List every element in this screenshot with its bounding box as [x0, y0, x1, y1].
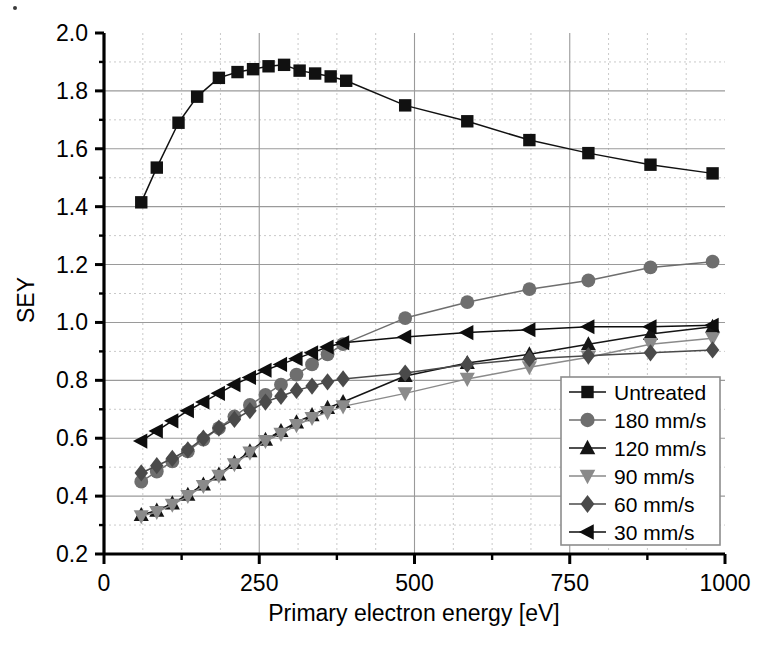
legend-label: 30 mm/s: [614, 521, 695, 544]
data-point-marker-diamond: [461, 356, 474, 373]
y-axis-tick-label: 1.0: [56, 309, 88, 335]
data-point-marker-circle: [581, 274, 595, 288]
data-point-marker-square: [309, 67, 321, 79]
data-point-marker-triangle-left: [242, 370, 256, 385]
data-point-marker-circle: [290, 368, 304, 382]
legend-label: 60 mm/s: [614, 493, 695, 516]
data-point-marker-circle: [644, 261, 658, 275]
y-axis-tick-label: 1.4: [56, 194, 88, 220]
data-point-marker-square: [581, 386, 593, 398]
data-point-marker-square: [262, 60, 274, 72]
data-point-marker-square: [278, 59, 290, 71]
y-axis-tick-label: 0.4: [56, 483, 88, 509]
data-point-marker-triangle-left: [148, 423, 162, 438]
data-point-marker-square: [324, 70, 336, 82]
data-point-marker-square: [151, 161, 163, 173]
x-axis-title: Primary electron energy [eV]: [268, 600, 559, 626]
y-axis-tick-label: 0.6: [56, 425, 88, 451]
series-line: [141, 65, 712, 202]
data-point-marker-square: [340, 75, 352, 87]
y-axis-tick-label: 1.6: [56, 136, 88, 162]
series-untreated: [135, 59, 719, 209]
data-point-marker-diamond: [290, 382, 303, 399]
data-point-marker-square: [644, 158, 656, 170]
data-point-marker-circle: [460, 295, 474, 309]
data-point-marker-square: [231, 66, 243, 78]
data-point-marker-square: [523, 134, 535, 146]
data-point-marker-diamond: [706, 341, 719, 358]
data-point-marker-square: [293, 64, 305, 76]
data-point-marker-square: [247, 63, 259, 75]
scan-artifact-speck: [13, 6, 17, 10]
data-point-marker-square: [172, 117, 184, 129]
data-point-marker-square: [191, 90, 203, 102]
data-point-marker-diamond: [336, 370, 349, 387]
legend-label: 180 mm/s: [614, 409, 706, 432]
data-point-marker-diamond: [644, 344, 657, 361]
x-axis-tick-label: 1000: [699, 570, 750, 596]
data-point-marker-triangle-left: [133, 434, 147, 449]
data-point-marker-triangle-left: [164, 413, 178, 428]
data-point-marker-square: [399, 99, 411, 111]
data-point-marker-square: [582, 147, 594, 159]
data-point-marker-diamond: [274, 388, 287, 405]
chart-canvas: 0.20.40.60.81.01.21.41.61.82.00250500750…: [0, 0, 765, 645]
data-point-marker-square: [706, 167, 718, 179]
data-point-marker-circle: [706, 255, 720, 269]
data-point-marker-triangle-left: [459, 325, 473, 340]
data-point-marker-circle: [522, 282, 536, 296]
data-point-marker-triangle-left: [521, 322, 535, 337]
x-axis-tick-label: 250: [240, 570, 278, 596]
data-point-marker-triangle-left: [180, 403, 194, 418]
y-axis-tick-label: 2.0: [56, 20, 88, 46]
x-axis-tick-label: 500: [395, 570, 433, 596]
data-point-marker-diamond: [321, 373, 334, 390]
data-point-marker-triangle-left: [226, 377, 240, 392]
data-point-marker-triangle-left: [211, 386, 225, 401]
data-point-marker-diamond: [212, 419, 225, 436]
y-axis-tick-label: 1.8: [56, 78, 88, 104]
data-point-marker-triangle-left: [195, 394, 209, 409]
data-point-marker-triangle-left: [288, 351, 302, 366]
y-axis-tick-label: 0.2: [56, 541, 88, 567]
legend-label: 90 mm/s: [614, 465, 695, 488]
x-axis-tick-label: 0: [98, 570, 111, 596]
y-axis-tick-label: 1.2: [56, 252, 88, 278]
data-point-marker-square: [213, 72, 225, 84]
data-point-marker-circle: [580, 413, 594, 427]
y-axis-title: SEY: [13, 277, 39, 323]
legend-label: Untreated: [614, 381, 706, 404]
data-point-marker-triangle-left: [397, 329, 411, 344]
data-point-marker-triangle-left: [580, 319, 594, 334]
data-point-marker-square: [135, 196, 147, 208]
data-point-marker-circle: [398, 311, 412, 325]
y-axis-tick-label: 0.8: [56, 367, 88, 393]
data-point-marker-triangle-left: [273, 357, 287, 372]
data-point-marker-square: [461, 115, 473, 127]
x-axis-tick-label: 750: [551, 570, 589, 596]
sey-chart-figure: 0.20.40.60.81.01.21.41.61.82.00250500750…: [0, 0, 765, 645]
legend-label: 120 mm/s: [614, 437, 706, 460]
chart-legend: Untreated180 mm/s120 mm/s90 mm/s60 mm/s3…: [561, 377, 720, 545]
